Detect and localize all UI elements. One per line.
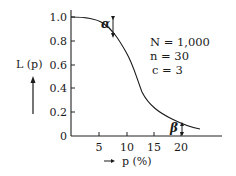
y-axis-label: L (p) (16, 58, 42, 71)
x-ticks (99, 132, 181, 136)
param-N: N = 1,000 (150, 35, 210, 49)
arrow-head-icon (111, 16, 115, 20)
param-c: c = 3 (152, 63, 183, 77)
x-tick-label: 5 (96, 141, 103, 154)
alpha-label: α (101, 17, 110, 31)
beta-annotation: β (169, 121, 184, 136)
parameters: N = 1,000 n = 30 c = 3 (150, 35, 210, 77)
y-tick-label: 0.2 (50, 106, 68, 119)
x-tick-label: 15 (147, 141, 161, 154)
oc-curve-chart: 1.0 0.8 0.6 0.4 0.2 0 5 10 15 20 α β N =… (0, 0, 236, 176)
y-tick-label: 0.6 (50, 59, 68, 72)
beta-label: β (169, 121, 178, 135)
y-axis-arrow-icon (31, 76, 36, 114)
x-tick-label: 20 (174, 141, 188, 154)
arrow-head-icon (111, 33, 115, 38)
alpha-annotation: α (101, 16, 115, 38)
y-tick-label: 0.4 (50, 82, 68, 95)
y-tick-label: 0 (60, 130, 67, 143)
y-tick-label: 0.8 (50, 35, 68, 48)
x-tick-labels: 5 10 15 20 (96, 141, 189, 154)
x-axis-arrow-icon (104, 159, 115, 163)
y-tick-label: 1.0 (50, 11, 68, 24)
x-tick-label: 10 (120, 141, 134, 154)
param-n: n = 30 (150, 49, 189, 63)
y-ticks (71, 17, 75, 112)
x-axis-label: p (%) (122, 155, 152, 168)
y-tick-labels: 1.0 0.8 0.6 0.4 0.2 0 (50, 11, 68, 143)
